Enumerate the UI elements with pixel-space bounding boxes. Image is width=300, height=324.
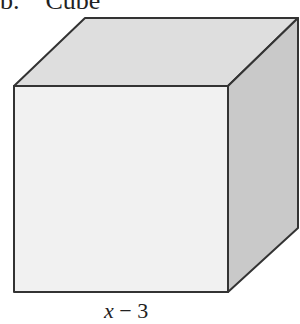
label-variable: x <box>104 298 114 323</box>
label-constant: 3 <box>137 298 148 323</box>
edge-length-label: x − 3 <box>104 298 148 324</box>
label-operator: − <box>119 298 131 323</box>
cube-front-face <box>14 86 228 292</box>
cube-diagram <box>0 0 300 324</box>
